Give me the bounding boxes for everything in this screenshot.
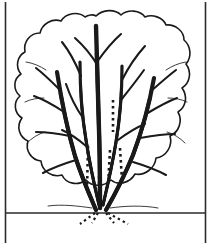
tree-line-art (0, 0, 211, 245)
coloring-page-canvas: Tree Coloring Page (0, 0, 211, 245)
